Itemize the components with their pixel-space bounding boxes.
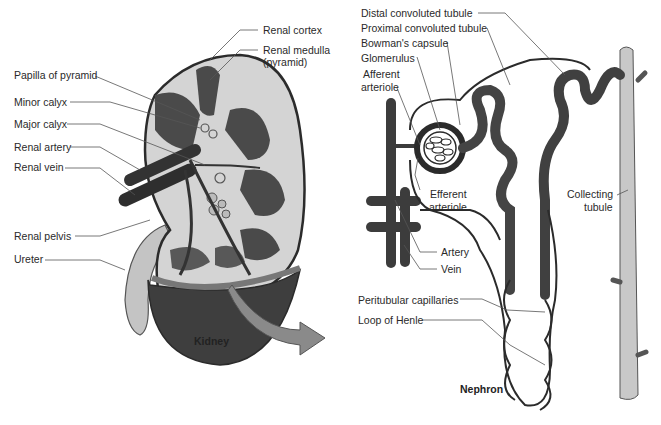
label-renal-medulla-sub: (pyramid) [263, 56, 307, 68]
label-renal-vein: Renal vein [14, 161, 64, 173]
label-bowmans-capsule: Bowman's capsule [361, 37, 448, 49]
label-ureter: Ureter [14, 253, 43, 265]
nephron-caption: Nephron [460, 383, 503, 395]
label-renal-cortex: Renal cortex [263, 24, 322, 36]
label-artery: Artery [441, 246, 469, 258]
label-distal-convoluted-tubule: Distal convoluted tubule [361, 7, 473, 19]
label-glomerulus: Glomerulus [361, 52, 415, 64]
label-papilla-of-pyramid: Papilla of pyramid [14, 69, 97, 81]
kidney-nephron-illustration [0, 0, 661, 425]
label-efferent-arteriole-2: arteriole [429, 201, 467, 213]
kidney-caption: Kidney [194, 335, 229, 347]
label-afferent-arteriole-2: arteriole [361, 81, 399, 93]
label-collecting-tubule-2: tubule [584, 201, 613, 213]
label-proximal-convoluted-tubule: Proximal convoluted tubule [361, 22, 487, 34]
label-renal-pelvis: Renal pelvis [14, 230, 71, 242]
label-peritubular-capillaries: Peritubular capillaries [358, 294, 458, 306]
label-efferent-arteriole-1: Efferent [430, 188, 467, 200]
label-major-calyx: Major calyx [14, 118, 67, 130]
label-afferent-arteriole-1: Afferent [363, 68, 400, 80]
label-minor-calyx: Minor calyx [14, 96, 67, 108]
label-collecting-tubule-1: Collecting [567, 188, 613, 200]
label-renal-artery: Renal artery [14, 141, 71, 153]
label-loop-of-henle: Loop of Henle [358, 314, 423, 326]
label-vein: Vein [441, 263, 461, 275]
label-renal-medulla: Renal medulla [263, 44, 330, 56]
